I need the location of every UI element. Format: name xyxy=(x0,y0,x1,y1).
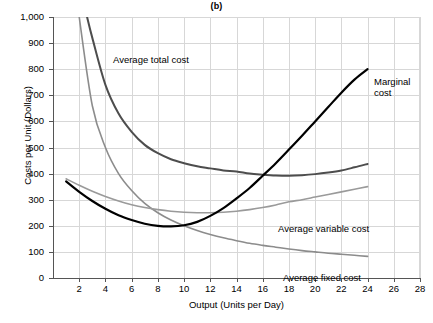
y-tick-label: 800 xyxy=(0,64,44,74)
x-tick-label: 14 xyxy=(225,284,249,294)
y-tick-label: 500 xyxy=(0,143,44,153)
y-tick-label: 400 xyxy=(0,169,44,179)
x-tick-label: 18 xyxy=(277,284,301,294)
x-axis-title: Output (Units per Day) xyxy=(53,299,420,310)
plot-canvas xyxy=(0,0,433,323)
y-tick-label: 0 xyxy=(0,273,44,283)
y-tick-label: 200 xyxy=(0,221,44,231)
axis-lines xyxy=(53,17,420,279)
y-tick-label: 300 xyxy=(0,195,44,205)
x-tick-label: 6 xyxy=(120,284,144,294)
axis-tick-marks xyxy=(49,18,421,283)
x-tick-label: 26 xyxy=(382,284,406,294)
x-tick-label: 2 xyxy=(67,284,91,294)
cost-curves-figure: (b) Costs per Unit (Dollars) Output (Uni… xyxy=(0,0,433,323)
data-series-layer xyxy=(66,0,367,256)
x-tick-label: 22 xyxy=(329,284,353,294)
y-tick-label: 1,000 xyxy=(0,12,44,22)
x-tick-label: 20 xyxy=(303,284,327,294)
curve-average-total-cost xyxy=(87,17,367,176)
curve-label-average-total-cost: Average total cost xyxy=(113,54,189,65)
curve-marginal-cost xyxy=(66,69,367,226)
y-tick-label: 100 xyxy=(0,247,44,257)
curve-average-variable-cost xyxy=(66,179,367,213)
x-tick-label: 28 xyxy=(408,284,432,294)
y-tick-label: 600 xyxy=(0,116,44,126)
x-tick-label: 16 xyxy=(251,284,275,294)
x-tick-label: 4 xyxy=(93,284,117,294)
x-tick-label: 8 xyxy=(146,284,170,294)
y-axis-title: Costs per Unit (Dollars) xyxy=(22,56,33,216)
curve-label-marginal-cost: Marginalcost xyxy=(374,76,410,98)
y-tick-label: 700 xyxy=(0,90,44,100)
curve-label-average-fixed-cost: Average fixed cost xyxy=(283,272,361,283)
x-tick-label: 24 xyxy=(356,284,380,294)
x-tick-label: 12 xyxy=(198,284,222,294)
curve-label-average-variable-cost: Average variable cost xyxy=(278,223,369,234)
chart-title: (b) xyxy=(0,1,433,11)
curve-average-fixed-cost xyxy=(73,0,368,256)
y-tick-label: 900 xyxy=(0,38,44,48)
grid-lines xyxy=(53,17,421,278)
x-tick-label: 10 xyxy=(172,284,196,294)
